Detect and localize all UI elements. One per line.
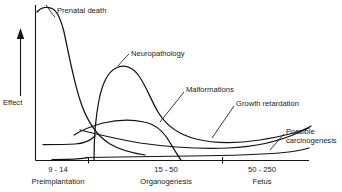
x-axis-range-label-3: 50 - 250 bbox=[248, 165, 276, 174]
x-axis-range-label-1: 9 - 14 bbox=[48, 165, 67, 174]
up-arrow-icon bbox=[17, 28, 24, 96]
curve-carcinogenesis-foot bbox=[52, 158, 88, 160]
y-axis-label: Effect bbox=[3, 98, 23, 107]
curve-possible-carcinogenesis bbox=[86, 148, 309, 158]
label-neuropathology: Neuropathology bbox=[131, 49, 185, 58]
curve-neuropathology bbox=[94, 66, 309, 160]
leader-neuropathology bbox=[118, 54, 129, 66]
x-axis-stage-label-organogenesis: Organogenesis bbox=[140, 177, 192, 186]
leader-growth-retardation bbox=[212, 106, 234, 138]
teratology-effect-chart: Prenatal death Neuropathology Malformati… bbox=[0, 0, 342, 192]
curves-group bbox=[37, 7, 311, 160]
x-axis-stage-label-fetus: Fetus bbox=[253, 177, 272, 186]
label-growth-retardation: Growth retardation bbox=[236, 99, 299, 108]
leader-lines-group bbox=[46, 5, 284, 150]
leader-malformations bbox=[160, 92, 184, 122]
x-axis-range-label-2: 15 - 50 bbox=[154, 165, 178, 174]
curve-baseline-tail bbox=[43, 136, 95, 145]
leader-prenatal-death bbox=[46, 5, 55, 17]
x-axis-stage-label-preimplantation: Preimplantation bbox=[32, 177, 85, 186]
label-possible-carcinogenesis-line1: Possible bbox=[286, 127, 315, 136]
label-prenatal-death: Prenatal death bbox=[57, 6, 106, 15]
label-malformations: Malformations bbox=[186, 85, 234, 94]
chart-canvas: Prenatal death Neuropathology Malformati… bbox=[0, 0, 342, 192]
label-possible-carcinogenesis-line2: carcinogenesis bbox=[286, 136, 337, 145]
